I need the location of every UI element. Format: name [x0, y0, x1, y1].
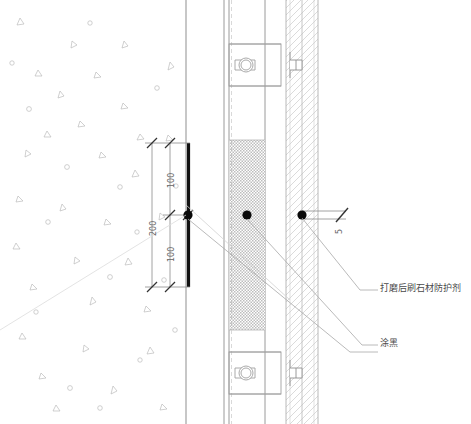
dimension-lower-segment: 100 [168, 247, 176, 262]
label-stone-protectant: 打磨后刷石材防护剂 [380, 284, 461, 293]
dimension-joint-width: 5 [336, 229, 344, 234]
concrete-wall-hatch [0, 0, 186, 424]
drawing-canvas: 200 100 100 5 打磨后刷石材防护剂 涂黑 [0, 0, 471, 424]
label-paint-black: 涂黑 [380, 339, 398, 348]
dimension-upper-segment: 100 [168, 173, 176, 188]
joint-node-middle [242, 210, 251, 219]
joint-node-left [183, 210, 192, 219]
cad-drawing-svg [0, 0, 471, 424]
dimension-overall: 200 [150, 221, 158, 236]
